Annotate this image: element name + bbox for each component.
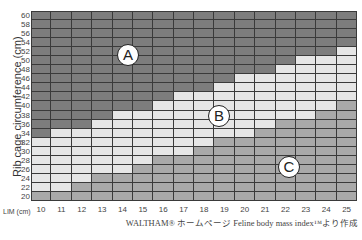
zone-cell-a [92, 101, 112, 110]
zone-cell-c [276, 192, 296, 201]
zone-cell-c [337, 156, 357, 165]
zone-cell-a [51, 56, 71, 65]
zone-cell-b [51, 165, 71, 174]
zone-cell-a [214, 38, 234, 47]
zone-cell-c [133, 183, 153, 192]
x-tick-label: 15 [133, 205, 153, 214]
zone-cell-a [92, 29, 112, 38]
x-tick-label: 20 [235, 205, 255, 214]
y-tick-label: 48 [16, 65, 30, 74]
zone-cell-a [153, 47, 173, 56]
zone-cell-c [153, 174, 173, 183]
zone-cell-c [255, 147, 275, 156]
zone-cell-a [31, 56, 51, 65]
zone-cell-c [296, 129, 316, 138]
zone-cell-a [72, 92, 92, 101]
zone-cell-b [235, 129, 255, 138]
zone-cell-a [31, 74, 51, 83]
zone-cell-b [316, 74, 336, 83]
y-tick-label: 52 [16, 47, 30, 56]
zone-cell-a [113, 20, 133, 29]
zone-cell-b [92, 129, 112, 138]
y-tick-label: 36 [16, 120, 30, 129]
x-axis-unit-label: LIM (cm) [3, 208, 31, 215]
zone-cell-b [174, 111, 194, 120]
zone-cell-c [255, 138, 275, 147]
zone-cell-b [174, 92, 194, 101]
zone-cell-a [113, 92, 133, 101]
zone-cell-c [31, 192, 51, 201]
zone-cell-c [316, 156, 336, 165]
zone-cell-a [174, 20, 194, 29]
zone-cell-a [255, 65, 275, 74]
x-tick-label: 12 [72, 205, 92, 214]
zone-cell-c [255, 183, 275, 192]
zone-cell-c [214, 183, 234, 192]
zone-cell-b [31, 174, 51, 183]
zone-cell-a [214, 65, 234, 74]
zone-cell-b [153, 111, 173, 120]
zone-cell-c [194, 165, 214, 174]
y-tick-label: 26 [16, 165, 30, 174]
zone-cell-a [337, 29, 357, 38]
zone-cell-c [255, 174, 275, 183]
zone-cell-c [337, 174, 357, 183]
zone-cell-a [276, 20, 296, 29]
zone-cell-c [255, 192, 275, 201]
zone-cell-a [316, 29, 336, 38]
zone-cell-b [31, 138, 51, 147]
zone-cell-b [276, 83, 296, 92]
zone-cell-a [194, 56, 214, 65]
zone-cell-a [72, 56, 92, 65]
zone-cell-b [255, 101, 275, 110]
zone-cell-b [296, 56, 316, 65]
zone-cell-b [214, 129, 234, 138]
zone-cell-a [194, 38, 214, 47]
x-tick-label: 14 [113, 205, 133, 214]
zone-cell-a [153, 74, 173, 83]
zone-cell-a [133, 38, 153, 47]
zone-cell-b [296, 92, 316, 101]
zone-cell-a [174, 47, 194, 56]
zone-cell-a [194, 20, 214, 29]
zone-cell-b [235, 111, 255, 120]
y-tick-label: 22 [16, 183, 30, 192]
zone-cell-c [316, 174, 336, 183]
zone-cell-c [296, 147, 316, 156]
zone-cell-a [276, 47, 296, 56]
zone-cell-c [255, 129, 275, 138]
zone-cell-b [255, 74, 275, 83]
zone-cell-a [214, 56, 234, 65]
zone-cell-a [51, 29, 71, 38]
zone-cell-c [194, 156, 214, 165]
zone-cell-a [31, 83, 51, 92]
zone-cell-c [235, 183, 255, 192]
zone-cell-b [31, 156, 51, 165]
zone-cell-a [92, 83, 112, 92]
zone-cell-c [194, 147, 214, 156]
zone-cell-b [92, 120, 112, 129]
zone-cell-b [316, 56, 336, 65]
zone-cell-c [276, 147, 296, 156]
zone-cell-c [276, 138, 296, 147]
zone-cell-b [174, 120, 194, 129]
zone-cell-a [194, 65, 214, 74]
zone-cell-b [235, 120, 255, 129]
zone-cell-b [276, 111, 296, 120]
zone-cell-a [72, 38, 92, 47]
zone-cell-b [92, 156, 112, 165]
zone-cell-b [214, 92, 234, 101]
zone-cell-b [133, 156, 153, 165]
zone-cell-b [113, 165, 133, 174]
zone-cell-b [255, 92, 275, 101]
y-tick-label: 24 [16, 174, 30, 183]
zone-cell-a [316, 47, 336, 56]
zone-cell-b [235, 83, 255, 92]
zone-c-label: C [278, 156, 300, 178]
zone-cell-a [174, 74, 194, 83]
zone-cell-b [72, 129, 92, 138]
zone-cell-a [72, 83, 92, 92]
zone-cell-b [235, 74, 255, 83]
zone-cell-a [92, 20, 112, 29]
zone-cell-a [316, 38, 336, 47]
